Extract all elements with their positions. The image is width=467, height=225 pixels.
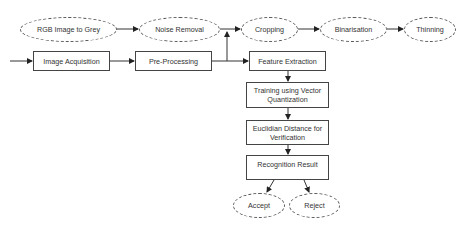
node-label: Cropping bbox=[255, 25, 284, 34]
node-label: Pre-Processing bbox=[149, 57, 198, 66]
node-thinning: Thinning bbox=[404, 17, 456, 42]
node-noise-removal: Noise Removal bbox=[139, 17, 220, 42]
node-euclidian-distance: Euclidian Distance for Verification bbox=[246, 120, 329, 145]
node-label: Noise Removal bbox=[155, 25, 204, 34]
node-label: Training using Vector Quantization bbox=[247, 86, 328, 104]
node-label: Image Acquisition bbox=[43, 57, 99, 66]
node-label: Accept bbox=[248, 201, 270, 210]
node-feature-extraction: Feature Extraction bbox=[249, 51, 326, 71]
node-label: Feature Extraction bbox=[258, 57, 317, 66]
node-pre-processing: Pre-Processing bbox=[135, 51, 212, 71]
node-label: Binarisation bbox=[335, 25, 373, 34]
node-label: RGB Image to Grey bbox=[37, 25, 100, 34]
node-training-vq: Training using Vector Quantization bbox=[246, 82, 329, 108]
node-label: Reject bbox=[304, 201, 324, 210]
node-recognition-result: Recognition Result bbox=[246, 155, 329, 180]
node-reject: Reject bbox=[289, 193, 340, 218]
node-image-acquisition: Image Acquisition bbox=[33, 51, 110, 71]
node-cropping: Cropping bbox=[241, 17, 298, 42]
node-label: Thinning bbox=[416, 25, 444, 34]
node-label: Recognition Result bbox=[257, 160, 317, 169]
node-binarisation: Binarisation bbox=[320, 17, 387, 42]
node-accept: Accept bbox=[233, 193, 285, 218]
node-label: Euclidian Distance for Verification bbox=[247, 124, 328, 142]
node-rgb-to-grey: RGB Image to Grey bbox=[20, 17, 117, 42]
